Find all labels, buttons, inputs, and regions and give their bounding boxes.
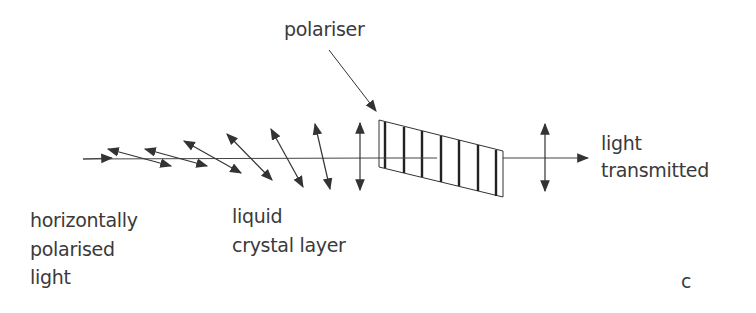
polarisation-arrow-4 <box>227 134 272 180</box>
polarisation-arrow-2 <box>145 149 207 166</box>
panel-letter: c <box>681 270 691 292</box>
input-light-label-line3: light <box>30 266 71 288</box>
polariser-pointer <box>329 50 376 111</box>
polariser <box>379 120 503 197</box>
liquid-crystal-label-line1: liquid <box>232 205 282 227</box>
light-transmitted-label-line2: transmitted <box>601 159 709 181</box>
optical-axis <box>83 158 588 159</box>
polarisation-arrow-1 <box>108 149 171 166</box>
lcd-polarisation-diagram: polariser light transmitted horizontally… <box>0 0 756 313</box>
polariser-label: polariser <box>284 18 364 40</box>
input-light-label-line2: polarised <box>30 238 115 260</box>
diagram-canvas <box>0 0 756 313</box>
input-light-label-line1: horizontally <box>30 209 138 231</box>
light-transmitted-label-line1: light <box>601 132 642 154</box>
liquid-crystal-label-line2: crystal layer <box>232 234 346 256</box>
polarisation-arrow-3 <box>184 141 241 173</box>
polarisation-arrow-6 <box>315 124 330 189</box>
